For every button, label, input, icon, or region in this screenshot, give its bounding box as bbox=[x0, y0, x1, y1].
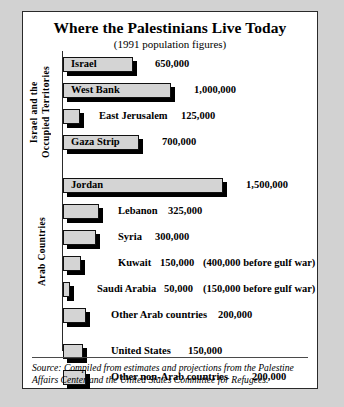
bar-category-label: Saudi Arabia bbox=[97, 283, 156, 294]
bar-category-label: United States bbox=[111, 345, 171, 356]
group-label-arab-countries: Arab Countries bbox=[37, 177, 63, 325]
bar bbox=[63, 230, 96, 245]
bar bbox=[63, 308, 86, 323]
bar-value-label: 300,000 bbox=[155, 231, 189, 242]
chart-title: Where the Palestinians Live Today bbox=[23, 19, 317, 37]
bar-annotation: (400,000 before gulf war) bbox=[203, 257, 315, 268]
bar bbox=[63, 282, 70, 297]
bar-value-label: 1,500,000 bbox=[246, 179, 288, 190]
bar-value-label: 150,000 bbox=[160, 257, 194, 268]
bar-value-label: 700,000 bbox=[162, 136, 196, 147]
bar-value-label: 50,000 bbox=[164, 283, 193, 294]
chart-subtitle: (1991 population figures) bbox=[23, 38, 317, 50]
bar bbox=[63, 256, 81, 271]
bar-value-label: 150,000 bbox=[188, 345, 222, 356]
bar-category-label: Kuwait bbox=[118, 257, 151, 268]
chart-panel: Where the Palestinians Live Today (1991 … bbox=[22, 11, 318, 389]
bar-category-label: Lebanon bbox=[118, 205, 158, 216]
plot-area: Israel and the Occupied Territories Arab… bbox=[23, 51, 317, 355]
bar-category-label: Gaza Strip bbox=[71, 136, 120, 147]
footer-divider bbox=[32, 357, 308, 358]
bar bbox=[63, 109, 80, 124]
bar-value-label: 325,000 bbox=[168, 205, 202, 216]
bar-category-label: West Bank bbox=[71, 84, 120, 95]
bar-value-label: 200,000 bbox=[218, 309, 252, 320]
bar-annotation: (150,000 before gulf war) bbox=[203, 283, 315, 294]
bar-value-label: 125,000 bbox=[181, 110, 215, 121]
bar-category-label: Syria bbox=[118, 231, 142, 242]
source-note: Source: Compiled from estimates and proj… bbox=[32, 362, 309, 387]
bar-category-label: Jordan bbox=[71, 179, 103, 190]
bar-category-label: East Jerusalem bbox=[99, 110, 168, 121]
bar bbox=[63, 204, 99, 219]
bar-value-label: 650,000 bbox=[155, 58, 189, 69]
bar-category-label: Israel bbox=[71, 58, 97, 69]
bar-value-label: 1,000,000 bbox=[194, 84, 236, 95]
group-label-israel-occupied-territories: Israel and the Occupied Territories bbox=[29, 53, 55, 171]
bar-category-label: Other Arab countries bbox=[111, 309, 207, 320]
